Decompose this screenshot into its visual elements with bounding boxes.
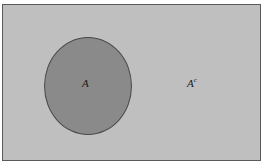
- set-a-label: A: [82, 78, 89, 89]
- universal-set-rectangle: A Ac: [2, 4, 261, 161]
- complement-superscript-c: c: [194, 76, 197, 84]
- complement-base-letter: A: [187, 77, 194, 89]
- venn-diagram-figure: A Ac: [0, 0, 266, 163]
- set-a-complement-label: Ac: [187, 78, 197, 89]
